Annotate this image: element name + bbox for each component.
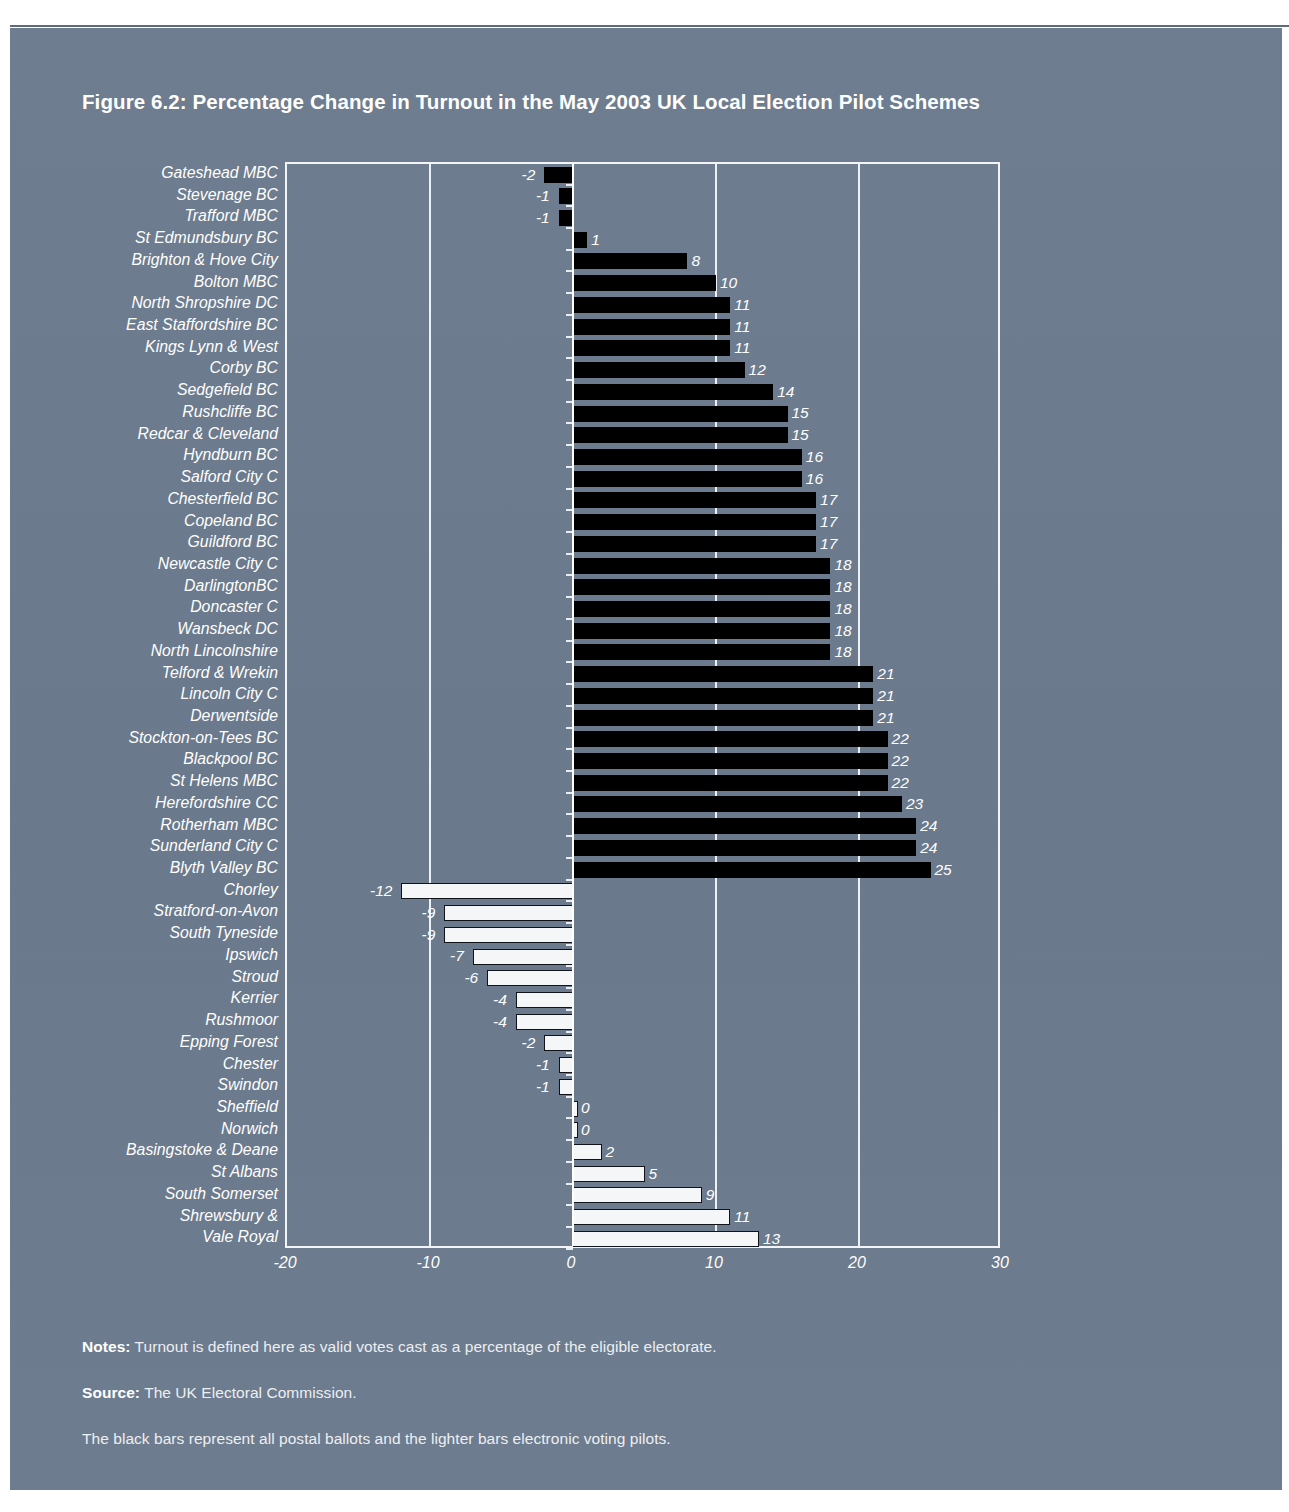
bar-value-label: -2	[522, 1033, 536, 1053]
bar-row: -1	[287, 207, 998, 229]
category-label: DarlingtonBC	[30, 575, 278, 597]
bar-value-label: 23	[906, 794, 923, 814]
category-label: Shrewsbury &	[30, 1205, 278, 1227]
category-label: Trafford MBC	[30, 205, 278, 227]
bar-value-label: 14	[777, 382, 794, 402]
bar-row: 22	[287, 750, 998, 772]
x-tick-label: -20	[273, 1254, 296, 1272]
bar	[573, 1231, 759, 1247]
figure-footer: Notes: Turnout is defined here as valid …	[82, 1338, 1182, 1476]
bar-value-label: 24	[920, 816, 937, 836]
bar-value-label: -4	[493, 990, 507, 1010]
x-tick-label: -10	[416, 1254, 439, 1272]
bar-row: 24	[287, 837, 998, 859]
row-tick	[566, 1248, 573, 1250]
bar	[573, 297, 730, 313]
bar-row: 25	[287, 859, 998, 881]
page-top-rule	[10, 25, 1289, 27]
category-label: St Helens MBC	[30, 770, 278, 792]
bar-value-label: 18	[834, 621, 851, 641]
bar	[444, 905, 573, 921]
bar-row: 18	[287, 577, 998, 599]
notes-text: Turnout is defined here as valid votes c…	[131, 1338, 717, 1355]
bar	[573, 840, 916, 856]
bar-value-label: 17	[820, 490, 837, 510]
bar	[487, 970, 573, 986]
bar-row: 21	[287, 685, 998, 707]
bar	[573, 644, 830, 660]
gridline-0	[572, 164, 574, 1246]
category-label: Stratford-on-Avon	[30, 900, 278, 922]
bar-value-label: 21	[877, 664, 894, 684]
bar-value-label: -4	[493, 1012, 507, 1032]
bar-row: -7	[287, 946, 998, 968]
bar-row: 23	[287, 794, 998, 816]
category-label: Epping Forest	[30, 1031, 278, 1053]
bar-row: 11	[287, 1207, 998, 1229]
category-label: St Albans	[30, 1161, 278, 1183]
bar	[544, 167, 573, 183]
category-label: Corby BC	[30, 357, 278, 379]
category-label: Telford & Wrekin	[30, 662, 278, 684]
bar-row: -12	[287, 881, 998, 903]
bar	[573, 579, 830, 595]
bar	[573, 1187, 702, 1203]
bar-value-label: 1	[591, 230, 600, 250]
category-label: Chester	[30, 1053, 278, 1075]
category-label: Sedgefield BC	[30, 379, 278, 401]
bar	[573, 666, 873, 682]
bar-value-label: 21	[877, 708, 894, 728]
bar-value-label: -9	[422, 925, 436, 945]
category-label: East Staffordshire BC	[30, 314, 278, 336]
category-label: Chorley	[30, 879, 278, 901]
bar-value-label: -1	[536, 186, 550, 206]
bar-value-label: 22	[892, 751, 909, 771]
bar-value-label: 18	[834, 555, 851, 575]
bar-value-label: 10	[720, 273, 737, 293]
bar	[573, 471, 802, 487]
source-label: Source:	[82, 1384, 140, 1401]
bar	[573, 753, 888, 769]
bar-value-label: 22	[892, 773, 909, 793]
source-line: Source: The UK Electoral Commission.	[82, 1384, 1182, 1402]
bar	[573, 710, 873, 726]
bar-row: -9	[287, 924, 998, 946]
bar-value-label: -6	[464, 968, 478, 988]
source-text: The UK Electoral Commission.	[140, 1384, 357, 1401]
bar	[573, 536, 816, 552]
bar	[516, 1014, 573, 1030]
bar	[573, 514, 816, 530]
bar	[573, 862, 931, 878]
bar	[516, 992, 573, 1008]
bar-row: 22	[287, 772, 998, 794]
category-label: North Shropshire DC	[30, 292, 278, 314]
bar	[544, 1035, 573, 1051]
category-label: Blackpool BC	[30, 748, 278, 770]
bar-value-label: 18	[834, 599, 851, 619]
category-label: Stockton-on-Tees BC	[30, 727, 278, 749]
category-label: Herefordshire CC	[30, 792, 278, 814]
x-tick-label: 20	[848, 1254, 866, 1272]
bar	[573, 601, 830, 617]
bar-row: 1	[287, 229, 998, 251]
bar-value-label: -1	[536, 1055, 550, 1075]
notes-label: Notes:	[82, 1338, 131, 1355]
bar-row: 2	[287, 1141, 998, 1163]
bar-row: 16	[287, 446, 998, 468]
bar-value-label: 17	[820, 534, 837, 554]
category-label: Doncaster C	[30, 596, 278, 618]
bar-row: 21	[287, 664, 998, 686]
bar	[573, 558, 830, 574]
legend-note-line: The black bars represent all postal ball…	[82, 1430, 1182, 1448]
bar-value-label: 15	[792, 425, 809, 445]
bar-value-label: 18	[834, 577, 851, 597]
bar-row: -1	[287, 1055, 998, 1077]
bar-row: 0	[287, 1120, 998, 1142]
bar	[573, 275, 716, 291]
category-label: South Tyneside	[30, 922, 278, 944]
bar-row: -1	[287, 1076, 998, 1098]
category-label: Basingstoke & Deane	[30, 1139, 278, 1161]
bar-row: 18	[287, 620, 998, 642]
bar-row: 15	[287, 403, 998, 425]
bar-value-label: 0	[581, 1098, 590, 1118]
